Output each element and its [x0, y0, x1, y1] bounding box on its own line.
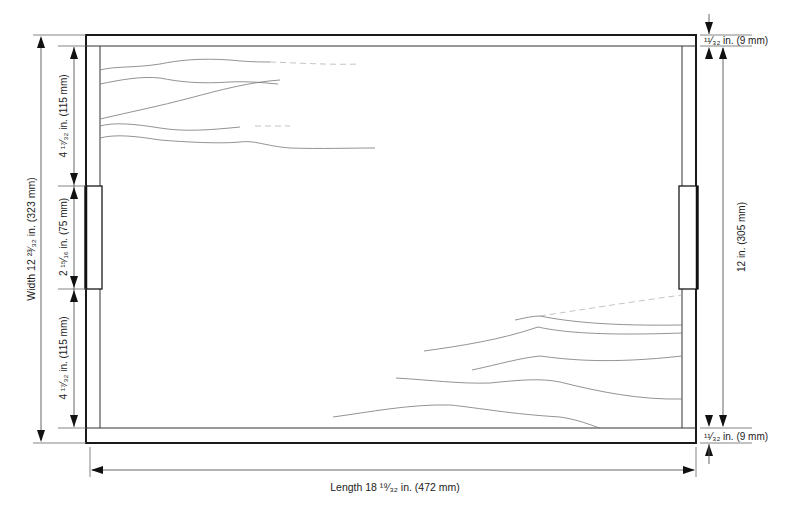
bottom-rail-label: ¹¹⁄₃₂ in. (9 mm): [704, 431, 768, 442]
left-bottom-segment-label: 4 ¹⁷⁄₃₂ in. (115 mm): [58, 316, 69, 399]
inner-height-label: 12 in. (305 mm): [736, 202, 747, 272]
outer-frame: [86, 35, 696, 443]
right-handle: [679, 186, 698, 289]
wood-grain-top-left: [100, 59, 375, 148]
width-label: Width 12 ²³⁄₃₂ in. (323 mm): [25, 177, 37, 300]
left-top-segment-label: 4 ¹⁷⁄₃₂ in. (115 mm): [58, 74, 69, 157]
left-handle: [85, 186, 102, 289]
frame-diagram: Width 12 ²³⁄₃₂ in. (323 mm) 4 ¹⁷⁄₃₂ in. …: [0, 0, 788, 507]
wood-grain-bottom-right: [333, 295, 682, 428]
length-label: Length 18 ¹⁹⁄₃₂ in. (472 mm): [330, 481, 460, 493]
length-dimension: [90, 447, 696, 477]
left-handle-segment-label: 2 ¹⁵⁄₁₆ in. (75 mm): [58, 198, 69, 276]
top-rail-label: ¹¹⁄₃₂ in. (9 mm): [704, 35, 768, 46]
